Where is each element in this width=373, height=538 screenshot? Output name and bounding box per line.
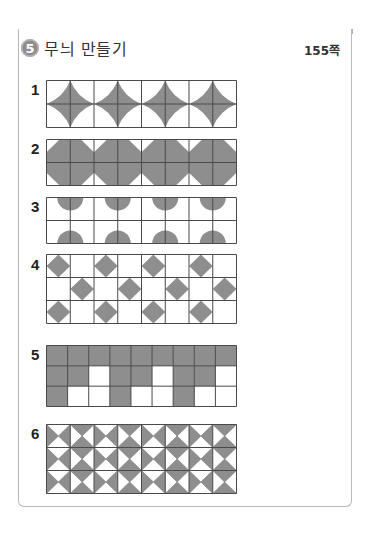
pattern-grid-3 (46, 197, 237, 244)
problem-label-1: 1 (31, 81, 39, 98)
pattern-grid-6 (46, 424, 237, 494)
pattern-grid-1 (46, 80, 237, 128)
page-reference: 155쪽 (304, 41, 340, 58)
problem-label-6: 6 (31, 425, 39, 442)
problem-label-2: 2 (31, 140, 39, 157)
problem-label-3: 3 (31, 198, 39, 215)
problem-label-5: 5 (31, 346, 39, 363)
section-header: 5 무늬 만들기 (21, 37, 127, 59)
pattern-grid-4 (46, 254, 237, 324)
section-title: 무늬 만들기 (44, 36, 127, 60)
section-number-badge: 5 (21, 39, 39, 57)
problem-label-4: 4 (31, 256, 39, 273)
pattern-grid-2 (46, 139, 237, 186)
pattern-grid-5 (46, 345, 237, 407)
